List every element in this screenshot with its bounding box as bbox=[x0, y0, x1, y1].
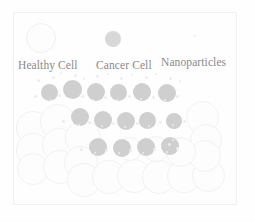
nanoparticle bbox=[60, 72, 62, 74]
nanoparticle bbox=[183, 120, 186, 123]
nanoparticle bbox=[92, 99, 94, 101]
nanoparticle bbox=[116, 99, 118, 101]
nanoparticle bbox=[124, 126, 126, 128]
nanoparticle bbox=[104, 96, 107, 99]
nanoparticle bbox=[50, 99, 52, 101]
nanoparticle bbox=[80, 148, 83, 151]
nanoparticle bbox=[112, 122, 115, 125]
nanoparticle bbox=[83, 78, 85, 80]
nanoparticle bbox=[131, 74, 133, 76]
nanoparticle bbox=[179, 80, 181, 82]
nanoparticle bbox=[120, 77, 123, 80]
nanoparticle bbox=[105, 149, 108, 152]
nanoparticle bbox=[94, 152, 96, 154]
nanoparticle bbox=[145, 76, 148, 79]
nanoparticle bbox=[101, 125, 103, 127]
nanoparticle bbox=[62, 120, 65, 123]
nanoparticle bbox=[172, 139, 174, 141]
nanoparticle bbox=[148, 125, 150, 127]
nanoparticle bbox=[159, 121, 162, 124]
nanoparticle bbox=[78, 124, 80, 126]
nanoparticle bbox=[142, 152, 144, 154]
nanoparticle bbox=[52, 76, 55, 79]
nanoparticle bbox=[166, 151, 168, 153]
nanoparticle bbox=[118, 152, 120, 154]
nanoparticle bbox=[172, 124, 174, 126]
nanoparticle bbox=[37, 79, 40, 82]
nanoparticle bbox=[169, 77, 172, 80]
nanoparticle bbox=[136, 122, 139, 125]
nanoparticle bbox=[164, 99, 166, 101]
nanoparticle bbox=[107, 73, 109, 75]
nanoparticle bbox=[176, 147, 179, 150]
nanoparticle bbox=[155, 73, 157, 75]
nanoparticle bbox=[153, 148, 156, 151]
nanoparticle bbox=[129, 149, 132, 152]
nanoparticle bbox=[168, 143, 171, 146]
nanoparticle bbox=[34, 95, 37, 98]
nanoparticle bbox=[128, 95, 131, 98]
nanoparticle bbox=[152, 96, 155, 99]
nanoparticle bbox=[176, 95, 179, 98]
nanoparticle bbox=[70, 98, 72, 100]
figure-root: Healthy CellCancer CellNanoparticles bbox=[0, 0, 255, 222]
nanoparticle bbox=[88, 121, 91, 124]
nanoparticle bbox=[74, 74, 77, 77]
nanoparticle bbox=[58, 94, 61, 97]
nanoparticle bbox=[96, 75, 99, 78]
nanoparticle bbox=[140, 98, 142, 100]
nanoparticle-layer bbox=[0, 0, 255, 222]
nanoparticle bbox=[81, 95, 84, 98]
